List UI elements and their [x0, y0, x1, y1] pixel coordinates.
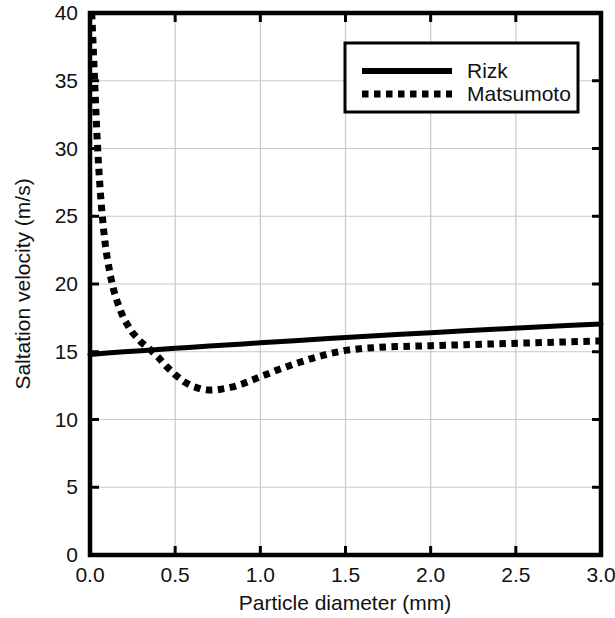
y-tick-label: 40	[55, 1, 78, 24]
y-axis-title: Saltation velocity (m/s)	[11, 178, 34, 389]
saltation-velocity-chart: 0.00.51.01.52.02.53.0 0510152025303540 P…	[0, 0, 615, 618]
y-tick-label: 15	[55, 340, 78, 363]
x-tick-label: 0.5	[161, 563, 190, 586]
x-axis-title: Particle diameter (mm)	[239, 591, 451, 614]
y-tick-label: 10	[55, 408, 78, 431]
y-tick-label: 0	[66, 543, 78, 566]
y-tick-label: 35	[55, 69, 78, 92]
y-tick-label: 20	[55, 272, 78, 295]
x-tick-label: 1.0	[246, 563, 275, 586]
x-tick-label: 2.0	[416, 563, 445, 586]
x-tick-label: 1.5	[331, 563, 360, 586]
y-tick-label: 30	[55, 137, 78, 160]
y-tick-label: 5	[66, 475, 78, 498]
chart-legend: RizkMatsumoto	[345, 43, 578, 112]
y-tick-label: 25	[55, 204, 78, 227]
x-tick-label: 0.0	[75, 563, 104, 586]
chart-figure: 0.00.51.01.52.02.53.0 0510152025303540 P…	[0, 0, 615, 618]
x-tick-label: 3.0	[586, 563, 615, 586]
x-tick-label: 2.5	[501, 563, 530, 586]
legend-label-rizk: Rizk	[467, 59, 508, 82]
legend-label-matsumoto: Matsumoto	[467, 82, 571, 105]
